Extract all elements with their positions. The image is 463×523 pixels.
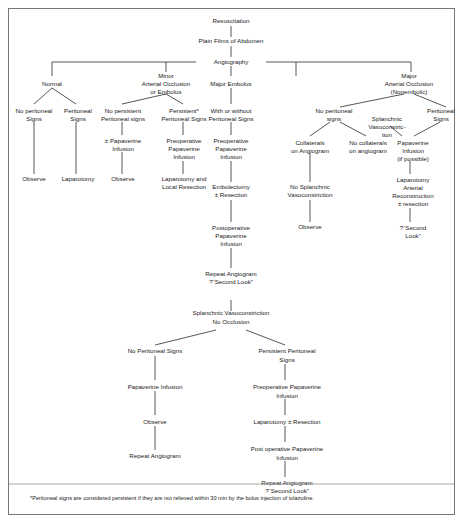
node-no-persistent-peritoneal-signs: No persistent Peritoneal signs <box>101 107 145 122</box>
svg-text:or Embolus: or Embolus <box>150 88 181 95</box>
svg-text:± resection: ± resection <box>398 200 429 207</box>
svg-text:Peritoneal signs: Peritoneal signs <box>101 115 145 122</box>
node-laparotomy-resection-bottom: Laparotomy ± Resection <box>253 418 321 425</box>
svg-text:Papaverine: Papaverine <box>168 145 200 152</box>
svg-text:Arterial: Arterial <box>403 184 423 191</box>
svg-text:No collaterals: No collaterals <box>349 139 387 146</box>
node-observe-3: Observe <box>298 223 322 230</box>
svg-text:Infusion: Infusion <box>173 153 195 160</box>
svg-text:Persistent Peritoneal: Persistent Peritoneal <box>258 347 315 354</box>
svg-text:(Nonembolic): (Nonembolic) <box>391 88 428 95</box>
svg-text:on Angiogram: on Angiogram <box>291 147 329 154</box>
svg-text:Preoperative: Preoperative <box>213 137 249 144</box>
svg-text:Papaverine: Papaverine <box>215 145 247 152</box>
svg-text:No Occlusion: No Occlusion <box>213 318 250 325</box>
svg-text:Vasoconstriction: Vasoconstriction <box>288 191 333 198</box>
node-papaverine-infusion-bottom: Papaverine Infusion <box>128 383 183 390</box>
svg-text:Repeat Angiogram: Repeat Angiogram <box>205 270 256 277</box>
svg-text:Post operative Papaverine: Post operative Papaverine <box>251 445 324 452</box>
node-laparotomy-1: Laparotomy <box>62 175 96 182</box>
svg-text:Splanchnic: Splanchnic <box>372 115 402 122</box>
flowchart-diagram: Resuscitation Plain Films of Abdomen Ang… <box>0 0 463 523</box>
node-postoperative-papaverine-bottom: Post operative Papaverine Infusion <box>251 445 324 461</box>
node-no-peritoneal-signs-occlusion: No peritoneal signs <box>316 107 353 122</box>
svg-text:tion: tion <box>382 131 393 138</box>
node-observe-2: Observe <box>111 175 135 182</box>
svg-text:Peritoneal: Peritoneal <box>427 107 455 114</box>
node-laparotomy-arterial-reconstruction: Laparotomy Arterial Reconstruction ± res… <box>392 176 434 207</box>
svg-text:Embolectomy: Embolectomy <box>212 183 250 190</box>
svg-text:Infusion: Infusion <box>402 147 424 154</box>
node-peritoneal-signs-occlusion: Peritoneal Signs <box>427 107 455 122</box>
svg-text:Collaterals: Collaterals <box>295 139 324 146</box>
node-papaverine-infusion-if-possible: Papaverine Infusion (if possible) <box>397 139 429 162</box>
node-no-peritoneal-signs-normal: No peritoneal Signs <box>16 107 53 122</box>
node-angiography: Angiography <box>214 58 250 65</box>
svg-text:Infusion: Infusion <box>220 240 242 247</box>
svg-text:Infusion: Infusion <box>112 145 134 152</box>
svg-text:Peritoneal: Peritoneal <box>64 107 92 114</box>
svg-text:No peritoneal: No peritoneal <box>16 107 53 114</box>
svg-text:Preoperative: Preoperative <box>166 137 202 144</box>
node-observe-1: Observe <box>22 175 46 182</box>
node-major-arterial-occlusion: Major Arterial Occlusion (Nonembolic) <box>385 72 434 95</box>
node-no-peritoneal-signs-bottom: No Peritoneal Signs <box>128 347 183 354</box>
node-optional-papaverine-infusion: ± Papaverine Infusion <box>105 137 142 152</box>
svg-text:Persistent*: Persistent* <box>169 107 200 114</box>
node-resuscitation: Resuscitation <box>212 17 250 24</box>
svg-text:Preoperative Papaverine: Preoperative Papaverine <box>253 383 322 390</box>
svg-text:± Papaverine: ± Papaverine <box>105 137 142 144</box>
node-persistent-peritoneal-signs: Persistent* Peritoneal Signs <box>161 107 206 122</box>
svg-text:Papaverine: Papaverine <box>215 232 247 239</box>
node-no-collaterals-on-angiogram: No collaterals on angiogram <box>349 139 387 154</box>
node-preoperative-papaverine-bottom: Preoperative Papaverine Infusion <box>253 383 322 399</box>
svg-text:Peritoneal Signs: Peritoneal Signs <box>208 115 253 122</box>
svg-text:Infusion: Infusion <box>276 454 298 461</box>
svg-text:With or without: With or without <box>211 107 252 114</box>
node-repeat-angiogram-bottom-left: Repeat Angiogram <box>129 452 180 459</box>
node-postoperative-papaverine: Postoperative Papaverine Infusion <box>212 224 250 247</box>
svg-text:Look”: Look” <box>405 232 420 239</box>
svg-text:Reconstruction: Reconstruction <box>392 192 434 199</box>
svg-text:?“Second Look”: ?“Second Look” <box>265 487 309 494</box>
svg-text:± Resection: ± Resection <box>215 191 248 198</box>
edge-group <box>34 26 446 477</box>
node-preoperative-papaverine-embolus: Preoperative Papaverine Infusion <box>213 137 249 160</box>
svg-text:Minor: Minor <box>158 72 173 79</box>
node-plain-films: Plain Films of Abdomen <box>199 37 265 44</box>
svg-text:No Splanchnic: No Splanchnic <box>290 183 330 190</box>
svg-text:Signs: Signs <box>70 115 85 122</box>
svg-text:Signs: Signs <box>433 115 448 122</box>
svg-text:Local Resection: Local Resection <box>162 183 207 190</box>
node-repeat-angiogram-embolus: Repeat Angiogram ?“Second Look” <box>205 270 256 285</box>
node-second-look-occlusion: ?“Second Look” <box>400 224 427 239</box>
svg-text:Laparotomy and: Laparotomy and <box>162 175 207 182</box>
figure-container: Resuscitation Plain Films of Abdomen Ang… <box>0 0 463 523</box>
svg-text:Major: Major <box>401 72 416 79</box>
svg-text:No peritoneal: No peritoneal <box>316 107 353 114</box>
svg-text:on angiogram: on angiogram <box>349 147 387 154</box>
svg-text:Laparotomy: Laparotomy <box>397 176 431 183</box>
svg-text:Infusion: Infusion <box>276 392 298 399</box>
svg-text:No persistent: No persistent <box>105 107 142 114</box>
svg-text:(if possible): (if possible) <box>397 155 429 162</box>
svg-text:Arterial Occlusion: Arterial Occlusion <box>142 80 191 87</box>
svg-text:Papaverine: Papaverine <box>397 139 429 146</box>
node-splanchnic-vasoconstriction-no-occlusion: Splanchnic Vasoconstriction No Occlusion <box>193 309 270 325</box>
node-collaterals-on-angiogram: Collaterals on Angiogram <box>291 139 329 154</box>
svg-text:Arterial Occlusion: Arterial Occlusion <box>385 80 434 87</box>
svg-text:Peritoneal Signs: Peritoneal Signs <box>161 115 206 122</box>
svg-text:Postoperative: Postoperative <box>212 224 250 231</box>
node-laparotomy-local-resection: Laparotomy and Local Resection <box>162 175 207 190</box>
svg-text:?“Second: ?“Second <box>400 224 427 231</box>
node-no-splanchnic-vasoconstriction: No Splanchnic Vasoconstriction <box>288 183 333 198</box>
svg-text:Splanchnic Vasoconstriction: Splanchnic Vasoconstriction <box>193 309 270 316</box>
node-repeat-angiogram-second-look-bottom: Repeat Angiogram ?“Second Look” <box>261 479 312 494</box>
svg-text:Signs: Signs <box>26 115 41 122</box>
node-persistent-peritoneal-signs-bottom: Persistent Peritoneal Signs <box>258 347 315 363</box>
node-peritoneal-signs-normal: Peritoneal Signs <box>64 107 92 122</box>
svg-text:Repeat Angiogram: Repeat Angiogram <box>261 479 312 486</box>
node-preoperative-papaverine-minor: Preoperative Papaverine Infusion <box>166 137 202 160</box>
node-minor-arterial-occlusion: Minor Arterial Occlusion or Embolus <box>142 72 191 95</box>
node-observe-4: Observe <box>143 418 167 425</box>
